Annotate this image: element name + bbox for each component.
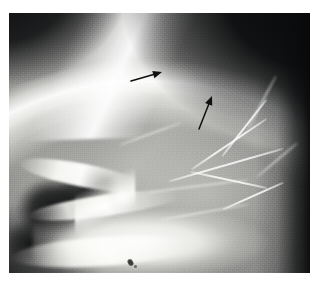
radiopaque-marker-dot [134,265,137,268]
radiograph-plate [9,13,310,273]
film-grain-layer-two [9,13,310,273]
radiograph-figure [0,0,320,286]
